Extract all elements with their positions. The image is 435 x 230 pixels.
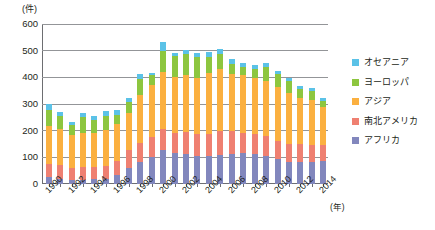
bar-segment-ヨーロッパ [206, 57, 212, 74]
bar-segment-南北アメリカ [69, 168, 75, 180]
y-tick-label: 500 [0, 46, 38, 55]
legend-swatch-icon [352, 118, 359, 125]
bar-segment-南北アメリカ [275, 141, 281, 159]
bar-segment-ヨーロッパ [126, 102, 132, 112]
bar-segment-ヨーロッパ [137, 79, 143, 94]
y-tick-label: 200 [0, 126, 38, 135]
bar-segment-ヨーロッパ [309, 91, 315, 100]
bar-segment-アジア [114, 124, 120, 160]
bar-segment-ヨーロッパ [149, 75, 155, 85]
bar-1997 [126, 98, 132, 184]
bar-2006 [229, 59, 235, 184]
bar-segment-南北アメリカ [320, 145, 326, 161]
bar-2007 [240, 63, 246, 184]
bar-2014 [320, 98, 326, 184]
bar-segment-アジア [69, 135, 75, 167]
legend-swatch-icon [352, 59, 359, 66]
bar-segment-ヨーロッパ [114, 115, 120, 124]
plot-area [42, 24, 328, 184]
bar-segment-アジア [194, 78, 200, 134]
bar-segment-アジア [275, 87, 281, 141]
bar-segment-ヨーロッパ [297, 89, 303, 98]
bar-segment-ヨーロッパ [172, 56, 178, 77]
bar-segment-ヨーロッパ [57, 116, 63, 129]
bar-2004 [206, 52, 212, 184]
bar-segment-アジア [160, 72, 166, 129]
bar-segment-ヨーロッパ [91, 120, 97, 133]
bar-segment-南北アメリカ [309, 145, 315, 162]
legend-item-ヨーロッパ: ヨーロッパ [352, 78, 418, 87]
y-tick-label: 0 [0, 179, 38, 188]
bar-segment-南北アメリカ [183, 132, 189, 154]
bar-segment-ヨーロッパ [229, 64, 235, 75]
legend-swatch-icon [352, 98, 359, 105]
bar-segment-ヨーロッパ [275, 74, 281, 87]
bar-2012 [297, 86, 303, 184]
legend-label: アジア [364, 97, 391, 106]
bar-segment-アジア [126, 113, 132, 150]
bar-1992 [69, 122, 75, 184]
bar-2003 [194, 53, 200, 184]
bar-segment-アジア [263, 81, 269, 136]
legend-swatch-icon [352, 137, 359, 144]
bar-2008 [252, 65, 258, 184]
bar-segment-南北アメリカ [206, 134, 212, 156]
bar-segment-ヨーロッパ [103, 116, 109, 130]
bar-segment-南北アメリカ [252, 134, 258, 155]
bar-segment-アジア [149, 85, 155, 137]
bar-segment-南北アメリカ [229, 131, 235, 153]
y-tick-label: 400 [0, 72, 38, 81]
bar-segment-南北アメリカ [46, 164, 52, 177]
y-tick-label: 600 [0, 19, 38, 28]
y-tick-label: 300 [0, 99, 38, 108]
bar-segment-南北アメリカ [286, 144, 292, 162]
legend-label: 南北アメリカ [364, 117, 418, 126]
bar-2010 [275, 71, 281, 184]
bar-1995 [103, 111, 109, 184]
bar-segment-ヨーロッパ [240, 67, 246, 76]
bar-segment-南北アメリカ [160, 129, 166, 150]
bar-segment-ヨーロッパ [252, 69, 258, 78]
bar-segment-アジア [252, 78, 258, 134]
bar-1991 [57, 112, 63, 184]
x-axis-tick-labels: 1990199219941996199820002002200420062008… [42, 186, 342, 226]
bar-2002 [183, 50, 189, 184]
legend-swatch-icon [352, 79, 359, 86]
bar-segment-アジア [137, 95, 143, 143]
bar-1990 [46, 104, 52, 184]
bar-segment-アジア [297, 98, 303, 144]
bar-segment-南北アメリカ [149, 137, 155, 157]
x-axis-unit-label: (年) [330, 200, 345, 212]
bar-segment-南北アメリカ [126, 150, 132, 168]
bar-2000 [160, 42, 166, 184]
bar-segment-アジア [91, 133, 97, 168]
bar-segment-アジア [80, 133, 86, 167]
bar-segment-ヨーロッパ [263, 67, 269, 80]
legend-item-アフリカ: アフリカ [352, 136, 418, 145]
y-tick-label: 100 [0, 152, 38, 161]
bar-segment-ヨーロッパ [217, 54, 223, 69]
bar-segment-アジア [206, 73, 212, 134]
legend-item-アジア: アジア [352, 97, 418, 106]
bar-1999 [149, 73, 155, 184]
bar-segment-オセアニア [46, 104, 52, 111]
legend-label: オセアニア [364, 58, 409, 67]
chart-legend: オセアニアヨーロッパアジア南北アメリカアフリカ [352, 58, 418, 156]
bar-series-container [42, 24, 328, 184]
bar-segment-ヨーロッパ [286, 81, 292, 93]
bar-segment-アジア [320, 107, 326, 145]
bar-2011 [286, 78, 292, 184]
bar-segment-南北アメリカ [114, 161, 120, 176]
bar-segment-南北アメリカ [240, 133, 246, 153]
bar-segment-アジア [183, 75, 189, 132]
bar-segment-ヨーロッパ [194, 57, 200, 78]
bar-2009 [263, 63, 269, 184]
bar-segment-アジア [103, 130, 109, 166]
bar-segment-南北アメリカ [137, 143, 143, 162]
bar-segment-南北アメリカ [217, 131, 223, 154]
bar-1994 [91, 116, 97, 184]
bar-segment-南北アメリカ [263, 136, 269, 156]
bar-2005 [217, 49, 223, 184]
legend-item-オセアニア: オセアニア [352, 58, 418, 67]
legend-item-南北アメリカ: 南北アメリカ [352, 117, 418, 126]
